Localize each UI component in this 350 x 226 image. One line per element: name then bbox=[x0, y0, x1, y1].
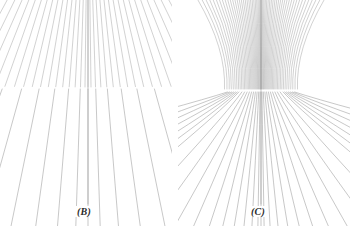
panel-c bbox=[178, 0, 350, 226]
panel-b bbox=[0, 0, 172, 226]
panel-label-c: (C) bbox=[248, 206, 268, 217]
panel-label-b: (B) bbox=[74, 206, 94, 217]
panel-c-lines bbox=[178, 0, 350, 226]
panel-b-lines bbox=[0, 0, 172, 226]
texture-gradient-figure: (B) (C) bbox=[0, 0, 350, 226]
